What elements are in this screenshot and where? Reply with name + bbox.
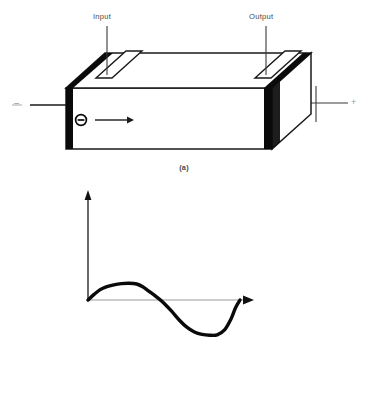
- right-electrode: [264, 88, 272, 149]
- panel-b-chart: Electric Field Distance (b): [0, 186, 368, 393]
- figure-root: Input Output – + (a) Electric Field Dist…: [0, 0, 368, 393]
- output-label: Output: [249, 12, 273, 21]
- x-axis: [88, 296, 254, 305]
- positive-terminal-label: +: [351, 97, 357, 107]
- device-diagram-svg: [0, 0, 368, 186]
- electron-icon: [76, 115, 87, 126]
- right-face-edge: [272, 81, 280, 149]
- electric-field-curve: [88, 283, 240, 335]
- left-electrode: [66, 88, 73, 149]
- negative-terminal-label: –: [14, 98, 19, 108]
- electric-field-chart-svg: [0, 186, 368, 393]
- input-label: Input: [93, 12, 111, 21]
- y-axis: [85, 190, 92, 300]
- caption-a: (a): [0, 163, 368, 172]
- device-front-face: [66, 88, 272, 149]
- panel-a-device-diagram: Input Output – + (a): [0, 0, 368, 186]
